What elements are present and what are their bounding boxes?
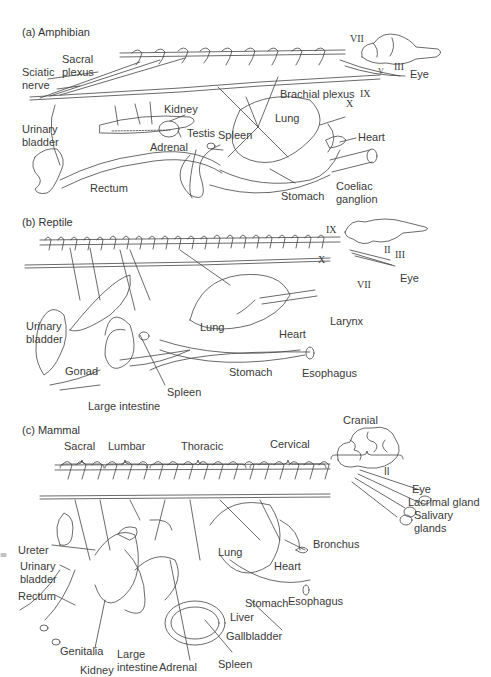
panel-title-reptile: (b) Reptile (22, 216, 73, 228)
label-lung: Lung (218, 546, 242, 558)
label-stomach: Stomach (281, 190, 324, 202)
region-lumbar: Lumbar (108, 440, 145, 452)
diagram-artwork (0, 0, 491, 677)
region-thoracic: Thoracic (181, 440, 223, 452)
label-urinary-bladder: bladder (22, 136, 59, 148)
label-gonad: Gonad (65, 365, 98, 377)
label-lacrimal-gland: Lacrimal gland (408, 496, 480, 508)
label-large-intestine: Large (117, 648, 145, 660)
label-lung: Lung (275, 112, 299, 124)
label-nerve-iii: III (395, 249, 405, 261)
label-nerve-v: V (378, 66, 384, 78)
label-liver: Liver (230, 611, 254, 623)
mammal-drawing (20, 427, 431, 660)
label-adrenal: Adrenal (150, 141, 188, 153)
label-nerve-ix: IX (360, 88, 371, 100)
label-stomach: Stomach (245, 597, 288, 609)
label-sciatic-nerve: nerve (22, 79, 50, 91)
label-gallbladder: Gallbladder (226, 630, 282, 642)
label-large-intestine: Large intestine (88, 400, 160, 412)
label-salivary-glands: Salivary (414, 509, 453, 521)
panel-title-mammal: (c) Mammal (22, 424, 80, 436)
panel-title-amphibian: (a) Amphibian (22, 26, 90, 38)
label-urinary-bladder: Urinary (22, 123, 57, 135)
region-cervical: Cervical (270, 438, 310, 450)
label-eye: Eye (412, 483, 431, 495)
label-kidney: Kidney (80, 664, 114, 676)
label-rectum: Rectum (90, 182, 128, 194)
label-heart: Heart (279, 328, 306, 340)
label-heart: Heart (358, 131, 385, 143)
label-esophagus: Esophagus (288, 595, 343, 607)
label-nerve-vii: VII (350, 33, 364, 45)
label-rectum: Rectum (18, 590, 56, 602)
region-cranial: Cranial (343, 414, 378, 426)
label-coeliac-ganglion: Coeliac (336, 180, 373, 192)
label-testis: Testis (187, 127, 215, 139)
label-eye: Eye (410, 68, 429, 80)
label-genitalia: Genitalia (60, 645, 103, 657)
label-heart: Heart (274, 560, 301, 572)
label-sacral-plexus: plexus (62, 66, 94, 78)
label-ureter: Ureter (18, 544, 49, 556)
label-spleen: Spleen (218, 658, 252, 670)
label-large-intestine: intestine (117, 661, 158, 673)
label-urinary-bladder: bladder (26, 333, 63, 345)
label-nerve-ix: IX (326, 224, 337, 236)
label-urinary-bladder: Urinary (20, 560, 55, 572)
label-bronchus: Bronchus (313, 538, 359, 550)
label-stomach: Stomach (229, 366, 272, 378)
label-adrenal: Adrenal (159, 661, 197, 673)
label-urinary-bladder: Urinary (26, 320, 61, 332)
label-nerve-vii: VII (357, 279, 371, 291)
label-brachial-plexus: Brachial plexus (280, 88, 355, 100)
label-nerve-ii: II (384, 466, 390, 478)
label-salivary-glands: glands (414, 522, 446, 534)
label-sacral-plexus: Sacral (62, 53, 93, 65)
label-nerve-ii: II (384, 244, 391, 256)
label-spleen: Spleen (167, 386, 201, 398)
region-sacral: Sacral (64, 440, 95, 452)
label-larynx: Larynx (330, 315, 363, 327)
label-esophagus: Esophagus (302, 367, 357, 379)
label-eye: Eye (400, 272, 419, 284)
label-nerve-iii: III (394, 61, 404, 73)
label-sciatic-nerve: Sciatic (22, 66, 54, 78)
label-nerve-x: X (346, 98, 353, 110)
label-coeliac-ganglion: ganglion (336, 193, 378, 205)
label-nerve-x: X (318, 254, 325, 266)
label-urinary-bladder: bladder (20, 573, 57, 585)
label-spleen: Spleen (218, 129, 252, 141)
label-kidney: Kidney (164, 103, 198, 115)
label-lung: Lung (200, 321, 224, 333)
